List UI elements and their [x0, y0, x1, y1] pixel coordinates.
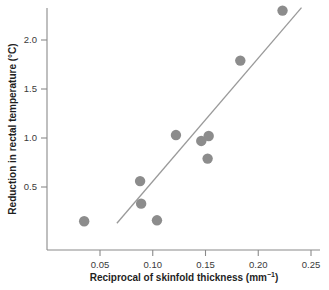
data-point	[277, 5, 287, 15]
x-tick-label-group: 0.050.100.150.200.25	[91, 259, 321, 270]
data-point	[136, 198, 146, 208]
y-tick-group	[41, 40, 47, 187]
data-point	[135, 176, 145, 186]
plot-canvas: 0.51.01.52.0 0.050.100.150.200.25 Recipr…	[0, 0, 329, 290]
data-point	[203, 131, 213, 141]
data-point	[152, 215, 162, 225]
data-point	[202, 153, 212, 163]
x-tick-label: 0.20	[249, 259, 268, 270]
y-tick-label: 0.5	[24, 181, 37, 192]
y-tick-label: 1.5	[24, 83, 37, 94]
data-point	[79, 216, 89, 226]
y-axis: 0.51.01.52.0	[24, 8, 47, 250]
x-tick-label: 0.05	[91, 259, 110, 270]
x-axis: 0.050.100.150.200.25	[47, 250, 320, 270]
y-tick-label-group: 0.51.01.52.0	[24, 34, 37, 192]
y-tick-label: 2.0	[24, 34, 37, 45]
data-point-group	[79, 5, 288, 226]
data-point	[235, 55, 245, 65]
x-tick-group	[100, 250, 311, 256]
y-axis-title: Reduction in rectal temperature (°C)	[7, 43, 18, 214]
x-tick-label: 0.15	[196, 259, 215, 270]
x-tick-label: 0.25	[302, 259, 321, 270]
regression-line	[117, 8, 302, 224]
x-tick-label: 0.10	[144, 259, 163, 270]
y-tick-label: 1.0	[24, 132, 37, 143]
data-point	[171, 130, 181, 140]
scatter-plot-figure: 0.51.01.52.0 0.050.100.150.200.25 Recipr…	[0, 0, 329, 290]
x-axis-title: Reciprocal of skinfold thickness (mm−1)	[90, 271, 279, 283]
